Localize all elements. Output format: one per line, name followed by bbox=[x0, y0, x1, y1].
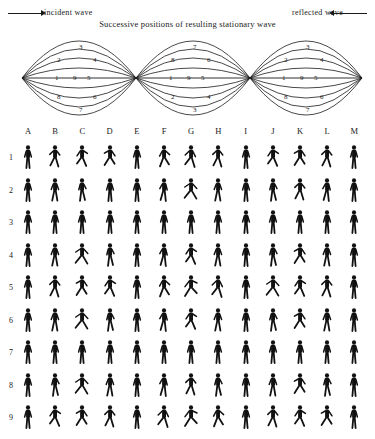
running-figure-icon bbox=[74, 144, 90, 170]
running-figure-icon bbox=[292, 177, 308, 203]
wave-position-label: 2 bbox=[171, 94, 175, 101]
running-figure-icon bbox=[74, 274, 90, 300]
running-figure-icon bbox=[210, 177, 226, 203]
running-figure-icon bbox=[183, 339, 199, 365]
running-figure-icon bbox=[129, 307, 145, 333]
running-figure-icon bbox=[292, 372, 308, 398]
running-figure-icon bbox=[74, 242, 90, 268]
wave-position-label: 3 bbox=[306, 44, 310, 51]
column-header-l: L bbox=[320, 126, 334, 136]
running-figure-icon bbox=[346, 144, 362, 170]
running-figure-icon bbox=[210, 307, 226, 333]
running-figure-icon bbox=[210, 404, 226, 430]
running-figure-icon bbox=[292, 307, 308, 333]
diagram-caption: Successive positions of resulting statio… bbox=[0, 19, 375, 29]
column-header-c: C bbox=[75, 126, 89, 136]
running-figure-icon bbox=[238, 339, 254, 365]
running-figure-icon bbox=[346, 177, 362, 203]
running-figure-icon bbox=[183, 307, 199, 333]
wave-position-label: 5 bbox=[314, 75, 318, 82]
row-header-9: 9 bbox=[6, 413, 16, 422]
wave-position-label: 7 bbox=[79, 107, 83, 114]
running-figure-icon bbox=[129, 144, 145, 170]
row-header-1: 1 bbox=[6, 153, 16, 162]
running-figure-icon bbox=[183, 144, 199, 170]
column-header-j: J bbox=[266, 126, 280, 136]
wave-position-label: 8 bbox=[57, 94, 61, 101]
running-figure-icon bbox=[265, 242, 281, 268]
wave-position-label: 6 bbox=[320, 94, 324, 101]
running-figure-icon bbox=[129, 242, 145, 268]
running-figure-icon bbox=[47, 372, 63, 398]
incident-wave-label: incident wave bbox=[44, 8, 93, 17]
running-figure-icon bbox=[102, 274, 118, 300]
running-figure-icon bbox=[156, 339, 172, 365]
running-figure-icon bbox=[210, 339, 226, 365]
running-figure-icon bbox=[74, 177, 90, 203]
running-figure-icon bbox=[102, 144, 118, 170]
running-figure-icon bbox=[20, 274, 36, 300]
running-figure-icon bbox=[319, 307, 335, 333]
running-figure-icon bbox=[238, 144, 254, 170]
reflected-wave-label: reflected wave bbox=[292, 8, 343, 17]
running-figure-icon bbox=[319, 177, 335, 203]
running-figure-icon bbox=[129, 404, 145, 430]
running-figure-icon bbox=[20, 404, 36, 430]
running-figure-icon bbox=[319, 404, 335, 430]
running-figure-icon bbox=[20, 339, 36, 365]
running-figure-icon bbox=[319, 339, 335, 365]
running-figure-icon bbox=[265, 307, 281, 333]
running-figure-icon bbox=[183, 274, 199, 300]
running-figure-icon bbox=[156, 177, 172, 203]
wave-position-label: 7 bbox=[193, 44, 197, 51]
running-figure-icon bbox=[183, 404, 199, 430]
running-figure-icon bbox=[346, 307, 362, 333]
running-figure-icon bbox=[102, 307, 118, 333]
running-figure-icon bbox=[102, 177, 118, 203]
running-figure-icon bbox=[156, 307, 172, 333]
wave-position-label: 2 bbox=[57, 57, 61, 64]
row-header-5: 5 bbox=[6, 283, 16, 292]
running-figure-icon bbox=[20, 372, 36, 398]
wave-position-label: 9 bbox=[187, 75, 191, 82]
running-figure-icon bbox=[238, 209, 254, 235]
running-figure-icon bbox=[102, 339, 118, 365]
running-figure-icon bbox=[265, 339, 281, 365]
running-figure-icon bbox=[102, 404, 118, 430]
running-figure-icon bbox=[47, 404, 63, 430]
column-header-i: I bbox=[239, 126, 253, 136]
running-figure-icon bbox=[292, 242, 308, 268]
running-figure-icon bbox=[346, 372, 362, 398]
running-figure-icon bbox=[183, 209, 199, 235]
running-figure-icon bbox=[183, 177, 199, 203]
running-figure-icon bbox=[74, 339, 90, 365]
wave-position-label: 9 bbox=[73, 75, 77, 82]
running-figure-icon bbox=[292, 274, 308, 300]
running-figure-icon bbox=[156, 274, 172, 300]
running-figure-icon bbox=[210, 242, 226, 268]
running-figure-icon bbox=[20, 144, 36, 170]
wave-position-label: 8 bbox=[284, 94, 288, 101]
running-figure-icon bbox=[20, 209, 36, 235]
running-figure-icon bbox=[346, 209, 362, 235]
running-figure-icon bbox=[210, 209, 226, 235]
running-figure-icon bbox=[74, 404, 90, 430]
running-figure-icon bbox=[210, 372, 226, 398]
running-figure-icon bbox=[265, 209, 281, 235]
running-figure-icon bbox=[183, 372, 199, 398]
running-figure-icon bbox=[74, 209, 90, 235]
figure-page: incident wave reflected wave Successive … bbox=[0, 0, 375, 439]
wave-position-label: 1 bbox=[55, 75, 59, 82]
running-figure-icon bbox=[20, 307, 36, 333]
running-figure-icon bbox=[156, 242, 172, 268]
running-figure-icon bbox=[238, 274, 254, 300]
wave-position-label: 8 bbox=[171, 57, 175, 64]
running-figure-icon bbox=[156, 404, 172, 430]
running-figure-icon bbox=[319, 372, 335, 398]
wave-position-label: 3 bbox=[79, 44, 83, 51]
wave-position-label: 3 bbox=[193, 107, 197, 114]
wave-position-label: 6 bbox=[93, 94, 97, 101]
column-header-g: G bbox=[184, 126, 198, 136]
running-figure-icon bbox=[265, 144, 281, 170]
row-header-2: 2 bbox=[6, 186, 16, 195]
